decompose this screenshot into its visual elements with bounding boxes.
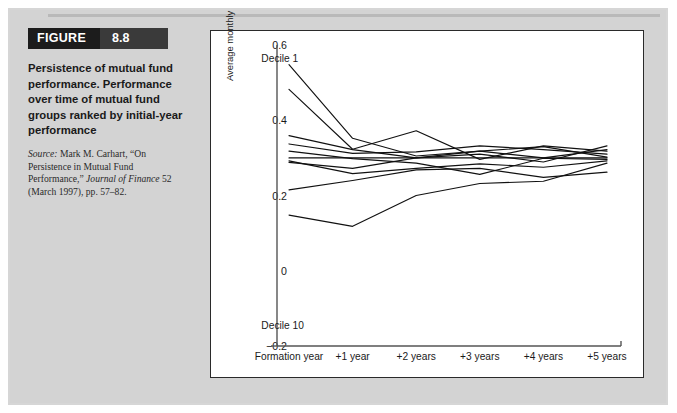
series-line xyxy=(289,163,607,226)
chart-panel: Average monthly excess return (%) 0.60.4… xyxy=(210,30,644,378)
figure-header-bar: FIGURE 8.8 xyxy=(28,28,168,49)
page-margin-bottom xyxy=(0,405,677,413)
series-line xyxy=(289,65,607,158)
line-chart-plot: Decile 1Decile 10 xyxy=(211,31,645,379)
series-annotation-label: Decile 10 xyxy=(261,320,304,331)
figure-caption-block: FIGURE 8.8 Persistence of mutual fund pe… xyxy=(28,28,200,198)
header-rule xyxy=(48,14,660,17)
series-annotation-label: Decile 1 xyxy=(261,53,298,64)
figure-number: 8.8 xyxy=(100,28,168,49)
page-margin-right xyxy=(668,0,677,413)
series-line xyxy=(289,168,607,189)
figure-caption-text: Persistence of mutual fund performance. … xyxy=(28,61,188,139)
figure-label: FIGURE xyxy=(28,28,100,49)
page-margin-top xyxy=(0,0,677,8)
figure-source-note: Source: Mark M. Carhart, “On Persistence… xyxy=(28,148,191,198)
chart-inner: Average monthly excess return (%) 0.60.4… xyxy=(211,31,643,377)
source-journal-name: Journal of Finance xyxy=(86,173,160,184)
page-margin-left xyxy=(0,0,8,413)
figure-page: FIGURE 8.8 Persistence of mutual fund pe… xyxy=(0,0,677,413)
source-lead: Source: xyxy=(28,148,57,159)
